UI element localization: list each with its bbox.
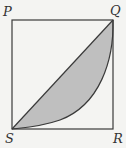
vertex-label-q: Q	[110, 3, 121, 18]
diagram-canvas: P Q S R	[0, 0, 126, 148]
vertex-label-s: S	[5, 131, 14, 146]
vertex-label-r: R	[112, 131, 123, 146]
square-diagram: P Q S R	[0, 0, 126, 148]
vertex-label-p: P	[2, 4, 12, 19]
